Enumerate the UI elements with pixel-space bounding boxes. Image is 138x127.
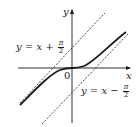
fraction-denominator: 2 [58, 48, 64, 55]
origin-label: 0 [64, 71, 70, 81]
x-axis-label: x [126, 71, 132, 81]
lower-asymptote-equation: y = x − [81, 85, 122, 96]
diagram-canvas [0, 0, 138, 127]
upper-asymptote-label: y = x + π2 [16, 40, 64, 55]
fraction-denominator: 2 [123, 92, 129, 99]
pi-over-2-fraction: π2 [123, 84, 130, 99]
pi-over-2-fraction: π2 [58, 40, 65, 55]
upper-asymptote-equation: y = x + [16, 41, 57, 52]
lower-asymptote-label: y = x − π2 [81, 84, 129, 99]
y-axis-label: y [63, 7, 69, 17]
